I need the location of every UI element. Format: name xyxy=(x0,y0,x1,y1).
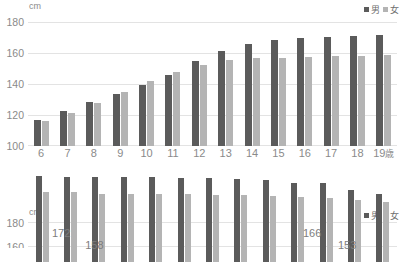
bar-male xyxy=(165,75,172,146)
bar-female xyxy=(305,57,312,146)
bar-male xyxy=(60,111,67,146)
bar-group xyxy=(107,22,133,146)
bar-group xyxy=(371,22,397,146)
bar-male xyxy=(350,36,357,146)
chart-legend: 男 女 xyxy=(364,3,399,16)
bar-male-2 xyxy=(121,177,127,262)
bar-male-2 xyxy=(149,177,155,262)
bar-male xyxy=(271,40,278,146)
legend-label-female-2: 女 xyxy=(390,209,399,222)
bar-male xyxy=(297,38,304,146)
y-tick-180: 180 xyxy=(0,17,24,28)
y-tick-160-chart2: 160 xyxy=(0,242,24,248)
x-tick-label: 12 xyxy=(186,148,212,159)
y-tick-160: 160 xyxy=(0,48,24,59)
bar-female xyxy=(121,92,128,146)
x-tick-label: 19歳 xyxy=(371,148,397,159)
bar-group-2 xyxy=(170,222,198,262)
height-by-age-chart: cm 男 女 180 160 140 120 100 6789101112131… xyxy=(0,0,403,180)
x-tick-label: 17 xyxy=(318,148,344,159)
x-axis-labels: 678910111213141516171819歳 xyxy=(28,148,397,159)
bar-male xyxy=(376,35,383,146)
legend-swatch-female xyxy=(383,7,388,12)
bar-group xyxy=(344,22,370,146)
bar-female xyxy=(226,60,233,146)
bar-male-2 xyxy=(376,194,382,262)
bar-female-2 xyxy=(213,195,219,262)
bar-group-2 xyxy=(113,222,141,262)
x-tick-label: 18 xyxy=(344,148,370,159)
bar-female xyxy=(279,58,286,146)
bar-female-2 xyxy=(355,200,361,262)
x-tick-label: 16 xyxy=(292,148,318,159)
legend-item-female: 女 xyxy=(383,3,399,16)
bar-male-2 xyxy=(64,177,70,262)
legend-label-male: 男 xyxy=(371,3,380,16)
bar-group-2 xyxy=(227,222,255,262)
y-tick-120: 120 xyxy=(0,110,24,121)
y-tick-180-chart2: 180 xyxy=(0,218,24,229)
x-tick-label: 14 xyxy=(239,148,265,159)
bar-female-2 xyxy=(270,196,276,262)
bar-group-2 xyxy=(198,222,226,262)
bar-female xyxy=(332,56,339,146)
bar-male xyxy=(34,120,41,146)
bar-female xyxy=(173,72,180,146)
bar-group xyxy=(239,22,265,146)
bar-group xyxy=(133,22,159,146)
bar-male xyxy=(245,44,252,146)
bar-female xyxy=(358,56,365,146)
bar-group xyxy=(213,22,239,146)
x-tick-label: 7 xyxy=(54,148,80,159)
bar-group xyxy=(265,22,291,146)
bar-female-2 xyxy=(71,192,77,262)
bar-male xyxy=(324,37,331,146)
bar-male-2 xyxy=(320,183,326,262)
bar-male-2 xyxy=(206,178,212,262)
bar-male xyxy=(113,94,120,146)
bar-male-2 xyxy=(234,179,240,262)
bar-group-2 xyxy=(369,222,397,262)
legend-label-female: 女 xyxy=(390,3,399,16)
x-tick-label: 13 xyxy=(213,148,239,159)
bar-female xyxy=(147,81,154,146)
x-tick-label: 8 xyxy=(81,148,107,159)
plot-area xyxy=(28,22,397,146)
bar-group xyxy=(28,22,54,146)
bar-female xyxy=(253,58,260,146)
bar-group xyxy=(186,22,212,146)
y-axis-unit-label: cm xyxy=(29,1,41,11)
bar-group-2 xyxy=(142,222,170,262)
bar-female-2 xyxy=(43,192,49,262)
bar-female-2 xyxy=(185,194,191,262)
legend-swatch-male xyxy=(364,7,369,12)
bar-series-container xyxy=(28,22,397,146)
legend-item-male: 男 xyxy=(364,3,380,16)
bar-male-2 xyxy=(178,178,184,262)
bar-male xyxy=(218,51,225,146)
plot-area-2: 172158166153 xyxy=(28,222,397,262)
bar-female-2 xyxy=(383,202,389,262)
bar-female xyxy=(42,121,49,146)
x-tick-label: 9 xyxy=(107,148,133,159)
bar-value-label: 172 xyxy=(52,228,70,239)
bar-group xyxy=(318,22,344,146)
x-tick-label: 10 xyxy=(133,148,159,159)
x-tick-label: 6 xyxy=(28,148,54,159)
bar-male-2 xyxy=(348,190,354,262)
bar-female xyxy=(384,55,391,146)
bar-male xyxy=(139,85,146,147)
bar-female xyxy=(68,113,75,146)
bar-female-2 xyxy=(156,194,162,262)
legend-swatch-male-2 xyxy=(364,213,369,218)
bar-female xyxy=(200,65,207,146)
bar-group xyxy=(81,22,107,146)
bar-male-2 xyxy=(36,176,42,262)
bar-female-2 xyxy=(241,195,247,262)
y-tick-100: 100 xyxy=(0,141,24,152)
bar-male-2 xyxy=(291,183,297,262)
bar-female-2 xyxy=(327,198,333,262)
bar-female-2 xyxy=(99,194,105,262)
bar-group-2 xyxy=(255,222,283,262)
bar-female-2 xyxy=(128,194,134,262)
